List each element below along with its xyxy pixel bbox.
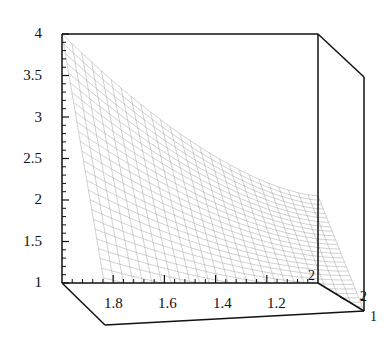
depth-tick-label-2-outer: 2 (360, 290, 367, 304)
mesh-line-v (105, 288, 364, 312)
box-edge-floor-front (105, 311, 364, 325)
x-tick-label-1-2: 1.2 (267, 296, 286, 311)
z-tick-label-3-5: 3.5 (8, 68, 42, 83)
plot-svg (0, 0, 392, 353)
mesh-line-u (62, 34, 105, 288)
plot-canvas: 4 3.5 3 2.5 2 1.5 1 1.8 1.6 1.4 1.2 2 2 … (0, 0, 392, 353)
mesh-line-v (74, 102, 331, 227)
box-edge-top-diagonal (318, 34, 364, 77)
x-tick-label-1-8: 1.8 (104, 296, 123, 311)
mesh-line-v (92, 210, 350, 276)
depth-tick-label-2-inner: 2 (308, 269, 315, 283)
mesh-line-v (82, 151, 339, 249)
z-tick-label-1: 1 (18, 275, 42, 290)
mesh-line-v (75, 112, 332, 231)
x-tick-label-1-4: 1.4 (213, 296, 232, 311)
mesh-line-v (77, 122, 334, 236)
z-tick-label-2: 2 (18, 192, 42, 207)
mesh-line-v (64, 44, 320, 201)
mesh-line-v (70, 83, 327, 218)
mesh-line-v (65, 54, 321, 205)
box-edge-floor-left-diagonal (62, 283, 105, 325)
axis-box-frame (62, 34, 364, 325)
z-axis-ticks (62, 34, 69, 283)
x-tick-label-1-6: 1.6 (158, 296, 177, 311)
mesh-line-v (79, 132, 336, 241)
z-tick-label-4: 4 (18, 26, 42, 41)
z-tick-label-2-5: 2.5 (8, 151, 42, 166)
depth-tick-label-1: 1 (370, 310, 377, 324)
z-tick-label-3: 3 (18, 110, 42, 125)
z-tick-label-1-5: 1.5 (8, 234, 42, 249)
